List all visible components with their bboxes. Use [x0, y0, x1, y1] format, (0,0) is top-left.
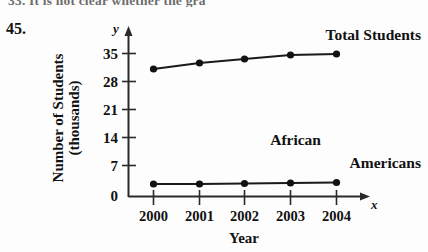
data-point	[196, 59, 203, 66]
data-point	[196, 180, 203, 187]
y-tick-label-28: 28	[103, 74, 118, 90]
series-total-students: Total Students	[150, 26, 421, 73]
y-tick-label-35: 35	[103, 46, 118, 62]
data-point	[333, 50, 340, 57]
data-point	[150, 65, 157, 72]
x-tick-label-2002: 2002	[230, 208, 259, 224]
data-point	[287, 51, 294, 58]
y-tick-label-0: 0	[111, 188, 119, 204]
x-tick-label-2003: 2003	[276, 208, 305, 224]
x-tick-label-2004: 2004	[322, 208, 351, 224]
data-point	[287, 179, 294, 186]
y-tick-label-14: 14	[103, 130, 119, 146]
y-tick-label-7: 7	[111, 158, 119, 174]
y-tick-group: 35 28 21 14 7 0	[103, 46, 136, 204]
x-tick-label-2001: 2001	[185, 208, 214, 224]
data-point	[333, 179, 340, 186]
x-axis-letter: x	[370, 197, 378, 212]
data-point	[150, 180, 157, 187]
x-tick-label-2000: 2000	[139, 208, 168, 224]
x-axis-title: Year	[229, 230, 259, 246]
x-axis-arrowhead	[360, 193, 370, 201]
line-chart: y x 35 28 21 14 7 0 2000 2001 2002 2003 …	[0, 0, 428, 252]
data-point	[241, 180, 248, 187]
data-point	[241, 55, 248, 62]
y-tick-label-21: 21	[103, 102, 118, 118]
x-tick-group: 2000 2001 2002 2003 2004	[139, 190, 351, 224]
y-axis-letter: y	[111, 21, 119, 36]
series-label-total-students: Total Students	[326, 26, 421, 43]
series-african-americans: African Americans	[150, 131, 421, 188]
series-label-african: African	[270, 131, 321, 148]
series-label-americans: Americans	[350, 154, 421, 171]
y-axis-arrowhead	[125, 26, 133, 36]
